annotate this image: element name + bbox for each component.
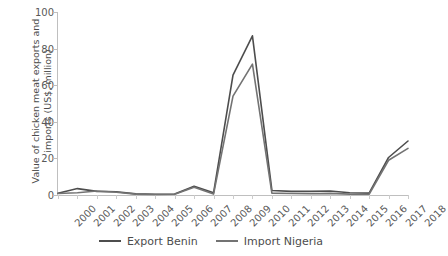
legend-label: Import Nigeria: [244, 235, 323, 248]
x-tick-label: 2013: [325, 203, 351, 229]
x-tick-label: 2006: [189, 203, 215, 229]
x-tick-label: 2011: [286, 203, 312, 229]
x-tick-label: 2000: [72, 203, 98, 229]
x-tick-label: 2002: [111, 203, 137, 229]
series-lines: [58, 12, 408, 195]
legend-line-icon: [99, 240, 121, 242]
x-tick-label: 2017: [403, 203, 429, 229]
chart-legend: Export BeninImport Nigeria: [0, 231, 422, 251]
x-tick-label: 2007: [209, 203, 235, 229]
legend-item-1[interactable]: Export Benin: [99, 235, 198, 248]
x-tick-label: 2015: [364, 203, 390, 229]
x-tick-label: 2001: [92, 203, 118, 229]
plot-area: [58, 12, 408, 195]
legend-line-icon: [216, 240, 238, 242]
x-tick-label: 2014: [345, 203, 371, 229]
x-tick-label: 2005: [170, 203, 196, 229]
x-tick-label: 2003: [131, 203, 157, 229]
x-tick-label: 2008: [228, 203, 254, 229]
y-axis-tick-labels: 020406080100: [26, 0, 54, 200]
x-tick-label: 2016: [384, 203, 410, 229]
x-tick-mark: [408, 195, 409, 199]
x-tick-label: 2012: [306, 203, 332, 229]
legend-label: Export Benin: [127, 235, 198, 248]
series-line-2: [58, 64, 408, 194]
x-tick-label: 2004: [150, 203, 176, 229]
y-tick-label: 100: [35, 7, 54, 18]
x-tick-label: 2010: [267, 203, 293, 229]
x-tick-label: 2009: [247, 203, 273, 229]
series-line-1: [58, 36, 408, 194]
legend-item-2[interactable]: Import Nigeria: [216, 235, 323, 248]
